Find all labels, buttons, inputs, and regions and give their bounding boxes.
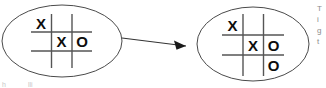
state-node-left[interactable]: X X O bbox=[2, 5, 122, 77]
right-cell-1-2: O bbox=[268, 37, 280, 54]
right-cell-0-0: X bbox=[227, 17, 237, 34]
side-note-line-1: T bbox=[317, 4, 322, 13]
state-node-right[interactable]: X X O O bbox=[197, 7, 309, 81]
side-note: T i g t bbox=[317, 4, 322, 46]
side-note-line-2: i bbox=[317, 15, 319, 24]
diagram-canvas: X X O X X O O T i g t bbox=[0, 0, 326, 88]
left-cell-1-2: O bbox=[76, 33, 88, 50]
left-cell-1-1: X bbox=[56, 33, 66, 50]
right-cell-2-2: O bbox=[268, 57, 280, 74]
bottom-note-line-1: h bbox=[2, 81, 6, 88]
left-cell-0-0: X bbox=[36, 15, 46, 32]
side-note-line-3: g bbox=[317, 26, 321, 35]
right-cell-1-1: X bbox=[248, 37, 258, 54]
transition-arrow[interactable] bbox=[122, 38, 186, 50]
side-note-line-4: t bbox=[317, 37, 320, 46]
arrow-head-icon bbox=[174, 41, 186, 50]
bottom-note: h lli bbox=[2, 81, 33, 88]
bottom-note-line-2: lli bbox=[28, 81, 33, 88]
